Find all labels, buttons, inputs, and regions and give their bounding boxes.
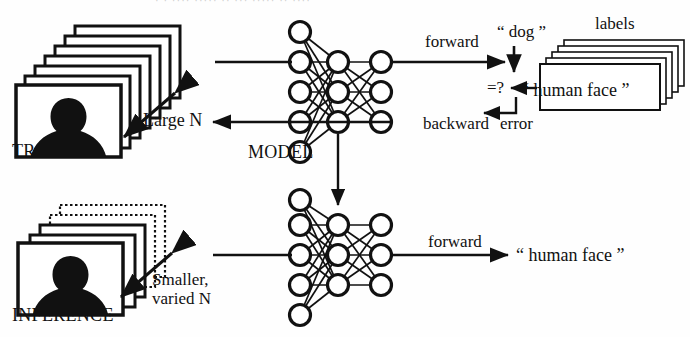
ground-truth-label: “ human face ” [521,80,629,101]
forward-label-bottom: forward [428,232,482,252]
diagram-canvas: · · ···· ····· ·· ··· ····· ·· ···· [0,0,690,337]
training-image-stack [16,26,180,158]
smaller-n-line2: varied N [152,289,211,308]
model-label: MODEL [248,142,314,163]
smaller-n-line1: Smaller, [152,270,211,289]
diagram-graphics [0,0,690,337]
prediction-label-top: “ dog ” [497,22,546,42]
training-dataset-label: TRAINING [12,141,101,162]
labels-stack-title: labels [595,14,635,34]
error-label: error [500,114,533,134]
error-elbow-arrow [484,97,516,113]
smaller-n-label: Smaller, varied N [152,270,211,308]
compare-label: =? [487,78,504,98]
backward-label: backward [423,114,489,134]
prediction-label-bottom: “ human face ” [516,245,624,266]
inference-network [290,190,392,326]
large-n-label: Large N [143,110,202,131]
forward-label-top: forward [425,32,479,52]
inference-image-stack [18,205,165,316]
inference-dataset-label: INFERENCE [12,305,114,326]
